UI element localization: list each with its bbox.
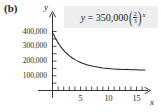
figure-container: (b) y=350,000(23)x <box>0 0 161 112</box>
x-tick-label-10: 10 <box>102 94 116 103</box>
y-tick-label-100000: 100,000 <box>3 72 47 80</box>
y-tick-label-200000: 200,000 <box>3 57 47 65</box>
exponential-decay-curve <box>53 33 146 70</box>
y-tick-label-300000: 300,000 <box>3 42 47 50</box>
x-tick-label-15: 15 <box>130 94 144 103</box>
y-tick-label-400000: 400,000 <box>3 28 47 36</box>
x-axis-ticks <box>58 87 142 91</box>
x-tick-label-5: 5 <box>74 94 88 103</box>
x-axis-label: x <box>150 97 154 107</box>
y-axis-label: y <box>44 2 48 12</box>
